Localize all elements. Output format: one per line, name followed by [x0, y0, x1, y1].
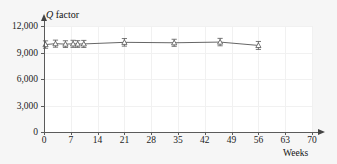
- y-tick: [41, 79, 44, 80]
- x-tick-label: 56: [245, 135, 271, 146]
- x-tick-label: 49: [219, 135, 245, 146]
- x-tick-label: 28: [138, 135, 164, 146]
- series-layer: [44, 26, 312, 132]
- y-tick: [41, 106, 44, 107]
- y-tick-label: 6,000: [0, 74, 38, 84]
- x-axis-arrow-icon: [318, 129, 325, 135]
- y-axis-label: Q factor: [46, 9, 79, 20]
- plot-area: [44, 26, 312, 132]
- gridline-vertical: [312, 26, 313, 132]
- y-tick: [41, 132, 44, 133]
- y-axis-label-rest: factor: [53, 9, 79, 20]
- y-axis-line: [44, 20, 45, 132]
- x-tick-label: 21: [111, 135, 137, 146]
- x-tick-label: 63: [272, 135, 298, 146]
- data-point: [172, 39, 177, 46]
- data-point: [53, 40, 58, 47]
- data-point: [218, 38, 223, 45]
- y-tick: [41, 53, 44, 54]
- data-point: [75, 41, 80, 48]
- x-tick-label: 7: [58, 135, 84, 146]
- x-axis-label: Weeks: [283, 148, 308, 158]
- y-tick-label: 0: [0, 127, 38, 137]
- data-point: [63, 41, 68, 48]
- data-point: [122, 39, 127, 47]
- chart-figure: 07142128354249566370 03,0006,0009,00012,…: [0, 0, 337, 164]
- x-tick-label: 70: [299, 135, 325, 146]
- data-point: [81, 40, 86, 47]
- y-tick-label: 9,000: [0, 48, 38, 58]
- x-tick-label: 14: [85, 135, 111, 146]
- y-tick: [41, 26, 44, 27]
- x-axis-line: [44, 132, 320, 133]
- data-point: [256, 41, 261, 49]
- y-tick-label: 12,000: [0, 21, 38, 31]
- y-tick-label: 3,000: [0, 101, 38, 111]
- x-tick-label: 35: [165, 135, 191, 146]
- x-tick-label: 42: [192, 135, 218, 146]
